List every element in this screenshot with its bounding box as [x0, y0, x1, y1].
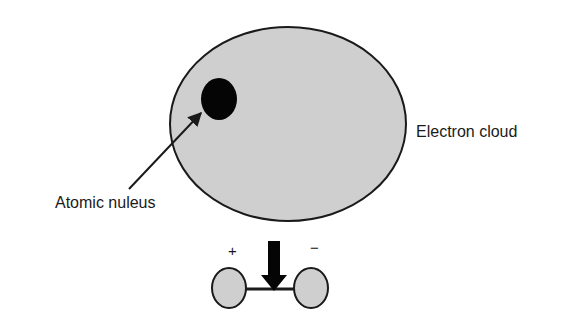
minus-sign: −	[310, 239, 319, 256]
dipole-positive-pole	[212, 268, 246, 308]
dipole-negative-pole	[294, 268, 328, 308]
atom-polarization-diagram: Electron cloud Atomic nuleus + −	[0, 0, 567, 323]
nucleus-label: Atomic nuleus	[55, 194, 156, 211]
atomic-nucleus	[201, 78, 237, 120]
plus-sign: +	[228, 242, 237, 259]
electron-cloud	[170, 27, 406, 221]
electron-cloud-label: Electron cloud	[416, 123, 517, 140]
down-arrow-icon	[261, 241, 287, 291]
